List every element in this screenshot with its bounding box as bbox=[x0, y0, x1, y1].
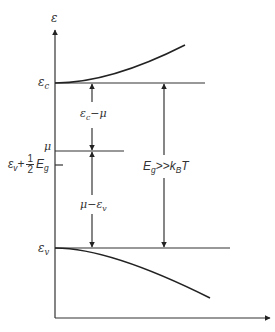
conduction-band-curve bbox=[55, 45, 185, 83]
midgap-label: εv+12Eg bbox=[8, 154, 49, 175]
valence-band-edge-label: εv bbox=[38, 242, 49, 256]
ec-minus-mu-label: εc−μ bbox=[80, 108, 107, 122]
mu-minus-ev-label: μ−εv bbox=[80, 199, 107, 213]
band-diagram: ε εc μ εv+12Eg εv εc−μ μ−εv Eg>>kBT bbox=[0, 0, 275, 332]
band-gap-label: Eg>>kBT bbox=[143, 160, 189, 174]
valence-band-curve bbox=[55, 248, 210, 298]
energy-axis-label: ε bbox=[51, 12, 57, 24]
conduction-band-edge-label: εc bbox=[38, 76, 49, 90]
chemical-potential-label: μ bbox=[44, 141, 51, 152]
